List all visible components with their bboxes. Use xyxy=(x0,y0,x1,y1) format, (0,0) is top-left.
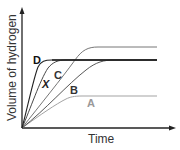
hydrogen-volume-chart xyxy=(0,0,180,150)
curve-label-b: B xyxy=(70,84,78,96)
curve-label-x: X xyxy=(42,78,49,90)
curve-label-d: D xyxy=(33,54,41,66)
y-axis-label: Volume of hydrogen xyxy=(5,25,19,121)
curve-label-a: A xyxy=(87,97,95,109)
curve-x xyxy=(22,60,157,128)
curve-d xyxy=(22,60,157,128)
curve-label-c: C xyxy=(54,69,62,81)
x-axis-arrow-icon xyxy=(169,126,176,131)
x-axis-label: Time xyxy=(88,132,114,146)
curve-b xyxy=(22,60,157,128)
y-axis-arrow-icon xyxy=(20,7,25,14)
